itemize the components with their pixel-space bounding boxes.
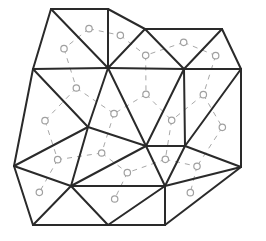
mesh-edge (184, 29, 222, 69)
mesh-edge (146, 146, 165, 186)
dual-node-circle-icon (187, 189, 193, 195)
mesh-edge (165, 146, 185, 186)
mesh-edge (108, 186, 165, 225)
mesh-edge (33, 69, 88, 127)
mesh-edge (14, 127, 88, 166)
dual-edge (45, 121, 58, 160)
triangulation-diagram (0, 0, 266, 241)
mesh-edge (33, 68, 108, 69)
dual-edge (165, 120, 171, 159)
dual-node-circle-icon (54, 156, 60, 162)
mesh-edge (71, 186, 108, 225)
mesh-edge (108, 29, 145, 68)
dual-edge (76, 88, 114, 114)
dual-node-circle-icon (219, 124, 225, 130)
mesh-edge (88, 68, 108, 127)
dual-edge (45, 88, 76, 121)
dual-node-circle-icon (194, 163, 200, 169)
dual-edge (203, 56, 215, 95)
mesh-edge (222, 29, 241, 69)
dual-node-circle-icon (61, 45, 67, 51)
mesh-edge (108, 68, 184, 69)
mesh-edge (14, 166, 71, 186)
mesh-edge (184, 69, 185, 146)
dual-node-circle-icon (73, 85, 79, 91)
mesh-edge (108, 68, 146, 146)
dual-edge (172, 95, 204, 121)
dual-node-circle-icon (86, 25, 92, 31)
mesh-edge (145, 29, 184, 69)
mesh-edge (33, 9, 51, 69)
mesh-edge (71, 127, 88, 186)
dual-node-circle-icon (111, 110, 117, 116)
dual-node-circle-icon (124, 169, 130, 175)
dual-edge (165, 159, 197, 166)
dual-node-circle-icon (142, 52, 148, 58)
dual-edge (127, 159, 165, 172)
mesh-edge (51, 9, 108, 68)
dual-edge (114, 94, 146, 113)
dual-edge (197, 127, 222, 166)
dual-node-circle-icon (42, 117, 48, 123)
dual-edge (89, 29, 120, 36)
dual-node-circle-icon (212, 52, 218, 58)
dual-node-circle-icon (36, 189, 42, 195)
dual-node-circle-icon (180, 39, 186, 45)
dual-node-circle-icon (168, 117, 174, 123)
dual-edge (146, 94, 172, 120)
dual-node-circle-icon (111, 196, 117, 202)
mesh-edge (108, 9, 145, 29)
dual-node-circle-icon (200, 91, 206, 97)
dual-node-circle-icon (98, 150, 104, 156)
dual-node-circle-icon (117, 32, 123, 38)
mesh-edge (185, 69, 241, 146)
mesh-edge (71, 146, 146, 186)
mesh-edge (146, 69, 184, 146)
mesh-edge (185, 146, 241, 167)
mesh-edge (14, 69, 33, 166)
dual-node-circle-icon (162, 156, 168, 162)
mesh-edge (14, 166, 33, 225)
dual-node-circle-icon (143, 91, 149, 97)
